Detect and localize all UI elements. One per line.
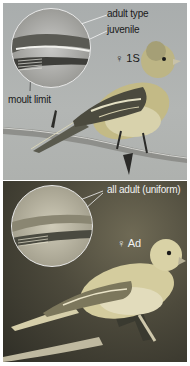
callout-juvenile: juvenile	[107, 24, 139, 35]
wing-feather-detail	[12, 9, 90, 87]
sex-age-label-1s: ♀ 1S	[115, 52, 140, 64]
callout-adult-type: adult type	[107, 8, 148, 19]
sex-age-label-adult: ♀ Ad	[117, 237, 141, 249]
photo-panel-female-1s: adult type juvenile moult limit ♀ 1S	[3, 3, 187, 180]
wing-feather-detail-adult	[12, 186, 92, 266]
wing-detail-loupe-1s	[11, 8, 91, 88]
wing-detail-loupe-adult	[11, 185, 93, 267]
photo-panel-female-adult: all adult (uniform) ♀ Ad	[3, 181, 187, 362]
callout-all-adult-uniform: all adult (uniform)	[107, 184, 180, 195]
callout-moult-limit: moult limit	[8, 94, 51, 105]
